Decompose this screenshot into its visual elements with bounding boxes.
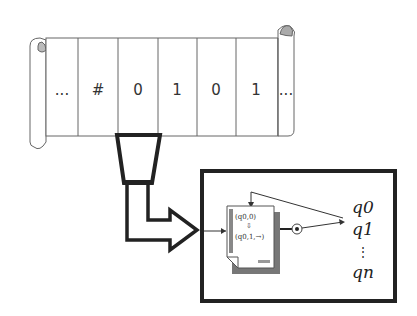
state-ellipsis: ⋮ [357, 245, 369, 259]
tape-cell: 0 [133, 81, 143, 99]
state-q1: q1 [352, 219, 374, 239]
head-to-control-arrow [127, 185, 197, 250]
tape-cell: 1 [172, 81, 182, 99]
tape-cell: ... [55, 81, 69, 99]
read-head [117, 135, 160, 183]
transition-input: (q0,0) [235, 213, 256, 221]
tape-cell: 0 [211, 81, 221, 99]
state-qn: qn [352, 262, 374, 282]
state-q0: q0 [352, 197, 374, 217]
tape-cell: 1 [251, 81, 261, 99]
transition-output: (q0,1,→) [235, 233, 264, 241]
tape-cell: ... [279, 81, 293, 99]
tape-cell: # [92, 81, 105, 99]
turing-machine-diagram: ... # 0 1 0 1 ... (q0,0) ⇩ (q0,1,→) q0 q… [0, 0, 417, 316]
transition-arrow: ⇩ [246, 222, 252, 230]
